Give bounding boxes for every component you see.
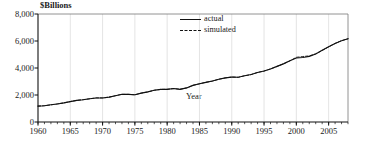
- y-tick-label: 8,000: [0, 9, 34, 19]
- y-tick-label: 0: [0, 117, 34, 127]
- legend-label-simulated: simulated: [204, 25, 236, 34]
- y-tick-label: 4,000: [0, 63, 34, 73]
- chart-legend: actual simulated: [178, 15, 256, 36]
- legend-item-simulated: simulated: [178, 26, 256, 36]
- legend-label-actual: actual: [204, 14, 224, 23]
- series-line-simulated: [38, 39, 348, 106]
- chart-figure: $Billions Year 8,0006,0004,0002,0000 196…: [0, 0, 368, 145]
- y-tick-label: 6,000: [0, 36, 34, 46]
- legend-item-actual: actual: [178, 15, 256, 25]
- x-tick-label: 2005: [309, 126, 349, 136]
- legend-swatch-dashed-icon: [180, 30, 201, 33]
- data-series-layer: [38, 39, 348, 106]
- y-tick-label: 2,000: [0, 90, 34, 100]
- legend-swatch-solid-icon: [180, 19, 201, 22]
- series-line-actual: [38, 39, 348, 106]
